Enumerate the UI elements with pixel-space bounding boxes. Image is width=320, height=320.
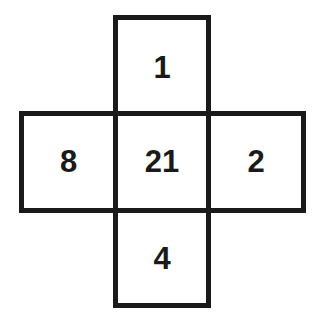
cell-bottom-value: 4 xyxy=(153,241,170,277)
cell-center: 21 xyxy=(113,111,211,213)
cell-center-value: 21 xyxy=(145,144,179,180)
cell-right: 2 xyxy=(206,111,306,213)
cell-right-value: 2 xyxy=(247,144,264,180)
cell-top: 1 xyxy=(113,15,211,116)
cross-diagram: 1 8 21 2 4 xyxy=(0,0,320,320)
cell-left-value: 8 xyxy=(60,144,77,180)
cell-bottom: 4 xyxy=(113,208,211,308)
cell-top-value: 1 xyxy=(153,50,170,86)
cell-left: 8 xyxy=(19,111,118,213)
